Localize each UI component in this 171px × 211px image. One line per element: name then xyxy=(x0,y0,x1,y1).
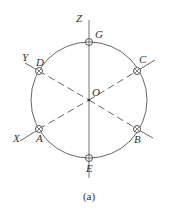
label-x: X xyxy=(12,132,21,144)
label-e: E xyxy=(85,162,93,174)
label-o: O xyxy=(92,86,100,98)
point-g-marker xyxy=(86,39,93,46)
label-y: Y xyxy=(22,51,30,63)
point-c-marker xyxy=(134,68,141,75)
label-z: Z xyxy=(76,12,83,24)
label-d: D xyxy=(35,56,44,68)
figure-caption: (a) xyxy=(83,190,96,203)
label-b: B xyxy=(134,133,141,145)
label-g: G xyxy=(95,28,103,40)
x-axis-dashed-left xyxy=(39,100,89,129)
diagram-canvas: Z G Y D C O X A B E (a) xyxy=(0,0,171,211)
point-e-marker xyxy=(86,155,93,162)
point-d-marker xyxy=(36,68,43,75)
label-a: A xyxy=(35,132,43,144)
point-b-marker xyxy=(134,126,141,133)
y-axis-dashed-right xyxy=(89,100,137,129)
y-axis-dashed-left xyxy=(39,71,89,100)
center-point-o xyxy=(88,99,90,101)
label-c: C xyxy=(139,53,147,65)
